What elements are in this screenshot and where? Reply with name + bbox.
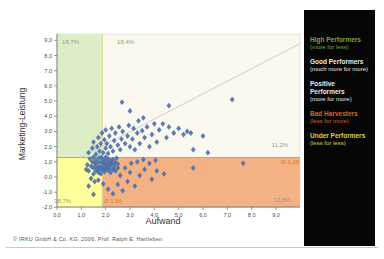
y-tick-label: -2,0 [43,204,52,210]
y-tick-label: 8,0 [44,53,52,59]
copyright-text: © IRKU GmbH & Co. KG, 2006. Prof. Ralph … [13,236,162,242]
y-tick-label: 0,0 [44,174,52,180]
y-tick-label: 4,0 [44,113,52,119]
x-tick-label: 1,0 [78,212,86,218]
legend-item: Positive Performers(more for more) [310,80,370,103]
y-tick-label: 1,0 [44,159,52,165]
y-tick-label: -1,0 [43,189,52,195]
legend-item-subtitle: (less for less) [310,140,370,147]
region-share-label: 38,7% [54,198,72,204]
x-tick-label: 2,0 [102,212,110,218]
legend-item-title: Under Performers [310,132,370,140]
region-share-label: 11,2% [272,142,289,148]
x-axis-title: Aufwand [145,216,180,226]
x-tick-label: 3,0 [126,212,134,218]
y-axis-ticks: 9,08,07,06,05,04,03,02,01,00,0-1,0-2,0 [43,37,57,210]
legend-item: Bad Harvesters(less for more) [310,110,370,125]
legend-item-title: High Performers [310,36,370,44]
region-high-performers [57,34,102,158]
x-tick-label: 8,0 [248,212,256,218]
legend-item: Good Performers(much more for more) [310,58,370,73]
region-share-label: 18,7% [62,39,80,45]
legend-item-subtitle: (much more for more) [310,66,370,73]
x-tick-label: 6,0 [199,212,207,218]
legend-item: High Performers(more for less) [310,36,370,51]
y-tick-label: 6,0 [44,83,52,89]
legend-item-title: Good Performers [310,58,370,66]
legend-item-title: Bad Harvesters [310,110,370,118]
legend-panel: High Performers(more for less)Good Perfo… [304,10,375,246]
legend-item: Under Performers(less for less) [310,132,370,147]
x-tick-label: 7,0 [223,212,231,218]
legend-item-title: Positive Performers [310,80,370,96]
y-tick-label: 7,0 [44,68,52,74]
region-share-label: 18,4% [117,39,135,45]
legend-item-subtitle: (more for more) [310,96,370,103]
legend-item-subtitle: (less for more) [310,118,370,125]
average-value-label: Ø 1,28 [281,159,300,165]
y-tick-label: 5,0 [44,98,52,104]
region-share-label: 12,8% [274,197,292,203]
y-tick-label: 3,0 [44,128,52,134]
y-tick-label: 9,0 [44,37,52,43]
y-tick-label: 2,0 [44,144,52,150]
legend-item-subtitle: (more for less) [310,44,370,51]
x-tick-label: 9,0 [272,212,280,218]
slide-page: { "chart_data": { "type": "scatter", "ti… [0,0,384,259]
average-value-label: Ø 1,86 [104,198,123,204]
slide-bottom-rule [6,247,378,248]
y-axis-title: Marketing-Leistung [17,88,27,161]
x-tick-label: 0,0 [53,212,61,218]
